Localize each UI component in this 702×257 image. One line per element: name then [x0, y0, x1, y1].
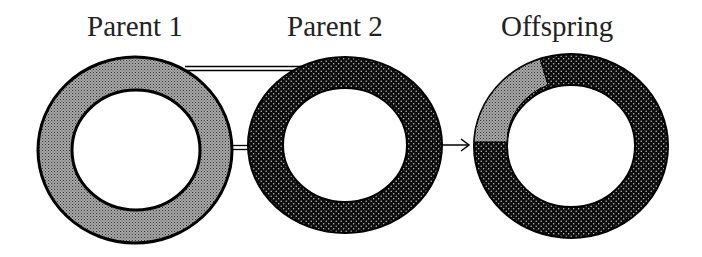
parent1-ring [38, 57, 232, 243]
parent2-ring [248, 57, 442, 233]
top-connector [185, 67, 305, 71]
offspring-inherited-segment [474, 59, 548, 142]
crossover-diagram [0, 0, 702, 257]
offspring-ring [474, 54, 668, 238]
arrow-icon [443, 139, 469, 151]
